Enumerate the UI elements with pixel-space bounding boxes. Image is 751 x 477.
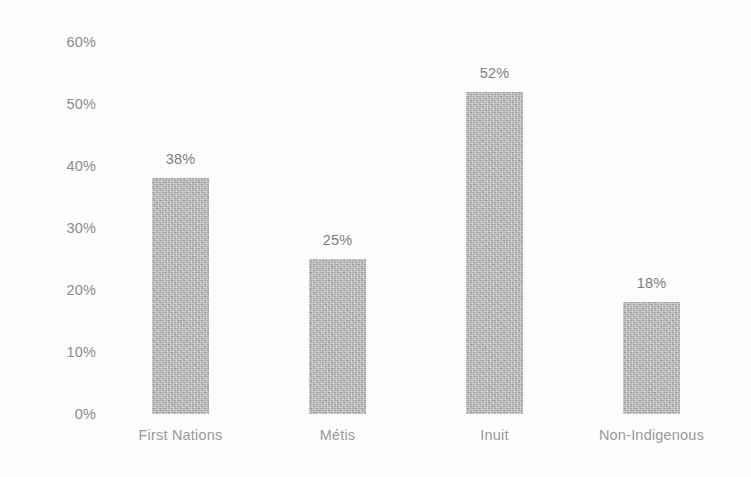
x-axis-category-label: Métis	[320, 427, 356, 443]
bar[interactable]: 52%	[466, 92, 523, 414]
x-axis-category-label: Inuit	[480, 427, 508, 443]
y-axis-tick-label: 0%	[0, 406, 96, 422]
y-axis: 0%10%20%30%40%50%60%	[0, 0, 96, 477]
bar-group[interactable]: 25%Métis	[309, 259, 366, 414]
bar-value-label: 52%	[480, 65, 510, 81]
bar-chart-figure: 0%10%20%30%40%50%60% 38%First Nations25%…	[0, 0, 751, 477]
bar[interactable]: 18%	[623, 302, 680, 414]
bar-value-label: 25%	[323, 232, 353, 248]
y-axis-tick-label: 10%	[0, 344, 96, 360]
bar-value-label: 38%	[166, 151, 196, 167]
x-axis-category-label: Non-Indigenous	[599, 427, 704, 443]
bar[interactable]: 38%	[152, 178, 209, 414]
y-axis-tick-label: 20%	[0, 282, 96, 298]
x-axis-category-label: First Nations	[139, 427, 223, 443]
y-axis-tick-label: 60%	[0, 34, 96, 50]
bar-group[interactable]: 52%Inuit	[466, 92, 523, 414]
y-axis-tick-label: 30%	[0, 220, 96, 236]
plot-area: 0%10%20%30%40%50%60% 38%First Nations25%…	[0, 0, 751, 477]
y-axis-tick-label: 40%	[0, 158, 96, 174]
bar-group[interactable]: 38%First Nations	[152, 178, 209, 414]
bar-value-label: 18%	[637, 275, 667, 291]
bar[interactable]: 25%	[309, 259, 366, 414]
bar-group[interactable]: 18%Non-Indigenous	[623, 302, 680, 414]
y-axis-tick-label: 50%	[0, 96, 96, 112]
